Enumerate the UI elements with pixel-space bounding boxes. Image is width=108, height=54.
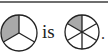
end-period: . — [101, 24, 105, 44]
right-shaded-sector — [67, 15, 82, 32]
right-circle-sixths — [65, 15, 99, 49]
is-label: is — [42, 22, 55, 42]
left-circle-thirds — [1, 15, 37, 51]
